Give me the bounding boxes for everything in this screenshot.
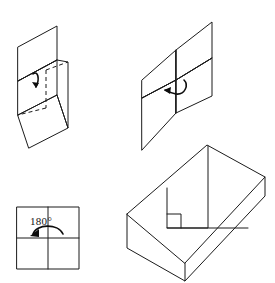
straight-angle-label: 180° [30, 215, 52, 227]
diagram-root: 180° [0, 0, 275, 283]
geometry-diagram-canvas: 180° [0, 0, 275, 283]
